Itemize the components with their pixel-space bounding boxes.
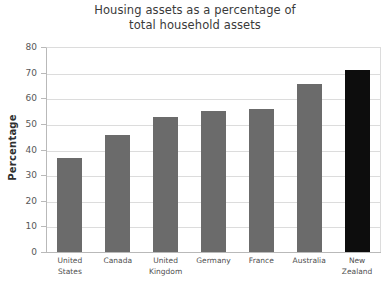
bar[interactable] — [57, 158, 82, 252]
x-axis-label-line: France — [237, 256, 285, 267]
y-axis-tick-label: 50 — [0, 119, 37, 129]
bar[interactable] — [105, 135, 130, 252]
x-axis-label-line: United — [46, 256, 94, 267]
bar-chart: Housing assets as a percentage of total … — [0, 0, 390, 291]
x-axis-label: UnitedStates — [46, 256, 94, 277]
x-axis-label: Canada — [94, 256, 142, 267]
x-axis-label: NewZealand — [333, 256, 381, 277]
x-axis-label-line: Germany — [190, 256, 238, 267]
x-axis-label-line: Australia — [285, 256, 333, 267]
bar[interactable] — [249, 109, 274, 253]
x-axis-label: UnitedKingdom — [142, 256, 190, 277]
y-axis-tick-label: 10 — [0, 221, 37, 231]
x-axis-label: Australia — [285, 256, 333, 267]
bar[interactable] — [297, 84, 322, 252]
bar[interactable] — [201, 111, 226, 252]
bars-layer — [46, 47, 381, 252]
chart-title: Housing assets as a percentage of total … — [40, 3, 350, 33]
x-axis-label-line: States — [46, 267, 94, 278]
chart-title-line-1: Housing assets as a percentage of — [40, 3, 350, 18]
x-axis-label-line: Canada — [94, 256, 142, 267]
y-axis-tick-label: 40 — [0, 145, 37, 155]
y-axis-tick-label: 80 — [0, 42, 37, 52]
chart-title-line-2: total household assets — [40, 18, 350, 33]
x-axis-label-line: United — [142, 256, 190, 267]
bar[interactable] — [345, 70, 370, 252]
x-axis-label-line: Zealand — [333, 267, 381, 278]
y-axis-tick-label: 0 — [0, 247, 37, 257]
y-axis-tick-label: 20 — [0, 196, 37, 206]
y-axis-tick-label: 60 — [0, 93, 37, 103]
x-axis-labels: UnitedStatesCanadaUnitedKingdomGermanyFr… — [46, 256, 381, 290]
x-axis-label-line: Kingdom — [142, 267, 190, 278]
x-axis-line — [46, 252, 381, 253]
y-axis-tick — [41, 252, 46, 253]
bar[interactable] — [153, 117, 178, 252]
y-axis-tick-label: 70 — [0, 68, 37, 78]
x-axis-label: France — [237, 256, 285, 267]
x-axis-label-line: New — [333, 256, 381, 267]
y-axis-tick-label: 30 — [0, 170, 37, 180]
x-axis-label: Germany — [190, 256, 238, 267]
